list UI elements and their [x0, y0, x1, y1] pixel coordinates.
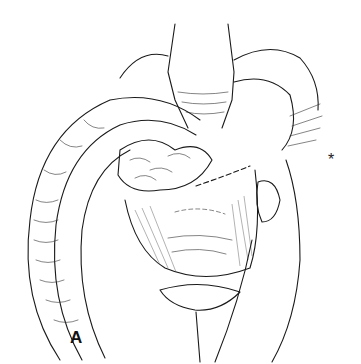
lower-tissue — [160, 284, 240, 362]
panel-label: A — [70, 328, 82, 348]
bowel-loops — [28, 98, 212, 361]
marker-asterisk: * — [328, 152, 334, 168]
upper-tissue — [120, 49, 318, 150]
retractor-blade — [168, 24, 234, 128]
right-tissue — [215, 104, 322, 362]
surgical-drawing — [0, 0, 361, 364]
